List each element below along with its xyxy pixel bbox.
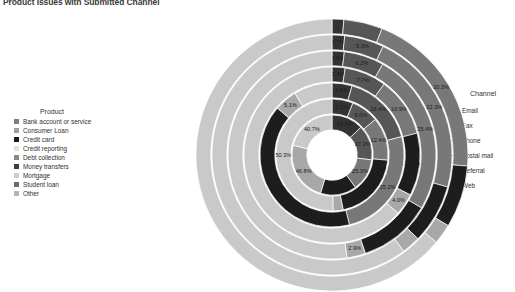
legend-swatch-icon <box>14 119 19 124</box>
legend-swatch-icon <box>14 191 19 196</box>
legend-item-money-transfers[interactable]: Money transfers <box>4 162 124 171</box>
legend-item-mortgage[interactable]: Mortgage <box>4 171 124 180</box>
legend-item-bank-account-or-service[interactable]: Bank account or service <box>4 117 124 126</box>
sunburst-segment[interactable] <box>332 35 345 50</box>
product-legend-title: Product <box>4 108 100 115</box>
sunburst-segment[interactable] <box>332 19 344 34</box>
legend-item-label: Student loan <box>23 180 59 189</box>
legend-item-label: Other <box>23 189 39 198</box>
legend-swatch-icon <box>14 137 19 142</box>
legend-item-credit-card[interactable]: Credit card <box>4 135 124 144</box>
legend-swatch-icon <box>14 173 19 178</box>
legend-item-other[interactable]: Other <box>4 189 124 198</box>
legend-item-label: Money transfers <box>23 162 69 171</box>
legend-item-label: Consumer Loan <box>23 126 68 135</box>
sunburst-svg: 20.3%7.4%1.7%5.3%22.3%8.0%1.9%6.2%25.4%1… <box>196 18 468 292</box>
product-legend: Product Bank account or service Consumer… <box>4 108 124 198</box>
sunburst-chart[interactable]: 20.3%7.4%1.7%5.3%22.3%8.0%1.9%6.2%25.4%1… <box>196 18 468 292</box>
legend-swatch-icon <box>14 146 19 151</box>
legend-item-debt-collection[interactable]: Debt collection <box>4 153 124 162</box>
legend-item-label: Mortgage <box>23 171 50 180</box>
legend-swatch-icon <box>14 128 19 133</box>
legend-item-label: Credit reporting <box>23 144 67 153</box>
channel-legend-title: Channel <box>470 90 515 97</box>
page-title: Product Issues with Submitted Channel <box>3 0 159 7</box>
legend-swatch-icon <box>14 155 19 160</box>
legend-item-label: Bank account or service <box>23 117 91 126</box>
legend-item-credit-reporting[interactable]: Credit reporting <box>4 144 124 153</box>
legend-item-label: Credit card <box>23 135 54 144</box>
legend-swatch-icon <box>14 182 19 187</box>
sunburst-segment[interactable] <box>332 51 344 66</box>
legend-item-label: Debt collection <box>23 153 65 162</box>
legend-item-student-loan[interactable]: Student loan <box>4 180 124 189</box>
sunburst-ring: 24.8%27.2%25.3%28.1%46.8%40.7% <box>292 115 372 195</box>
legend-item-consumer-loan[interactable]: Consumer Loan <box>4 126 124 135</box>
legend-swatch-icon <box>14 164 19 169</box>
sunburst-ring: 1.9%6.2%25.4%11.3%2.9% <box>228 51 436 259</box>
